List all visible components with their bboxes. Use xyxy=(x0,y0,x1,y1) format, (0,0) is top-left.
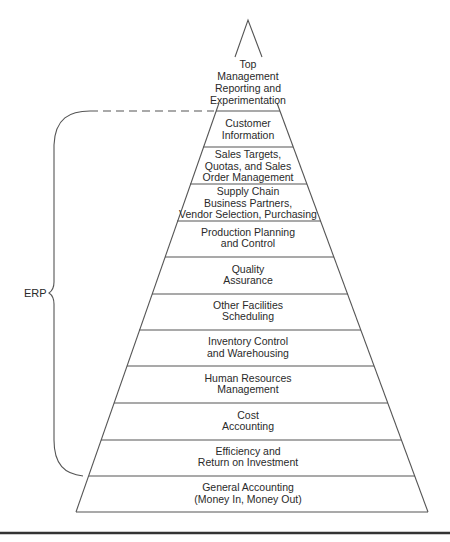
svg-text:Supply Chain: Supply Chain xyxy=(217,185,280,197)
svg-text:Scheduling: Scheduling xyxy=(222,310,274,322)
layer-production-planning: Production Planning and Control xyxy=(201,226,295,249)
layer-quality-assurance: Quality Assurance xyxy=(223,263,273,286)
svg-text:Reporting and: Reporting and xyxy=(215,82,281,94)
erp-pyramid-diagram: ERP Top Management Reporting and Experim… xyxy=(0,0,450,542)
layer-inventory-control: Inventory Control and Warehousing xyxy=(207,335,289,359)
layer-cost-accounting: Cost Accounting xyxy=(222,409,274,432)
pyramid-left-side xyxy=(76,103,219,512)
apex-label: Top Management Reporting and Experimenta… xyxy=(210,58,286,106)
pyramid-right-side xyxy=(277,103,428,512)
svg-text:Information: Information xyxy=(222,129,275,141)
svg-text:Sales Targets,: Sales Targets, xyxy=(215,148,281,160)
layer-supply-chain: Supply Chain Business Partners, Vendor S… xyxy=(179,185,317,220)
svg-text:Vendor Selection, Purchasing: Vendor Selection, Purchasing xyxy=(179,208,317,220)
svg-text:Management: Management xyxy=(217,70,278,82)
svg-text:and Control: and Control xyxy=(221,237,275,249)
layer-human-resources: Human Resources Management xyxy=(205,372,292,395)
svg-text:Return on Investment: Return on Investment xyxy=(198,456,298,468)
layer-efficiency-roi: Efficiency and Return on Investment xyxy=(198,445,298,468)
svg-text:Experimentation: Experimentation xyxy=(210,94,286,106)
layer-sales-targets: Sales Targets, Quotas, and Sales Order M… xyxy=(202,148,293,183)
svg-text:(Money In, Money Out): (Money In, Money Out) xyxy=(194,493,301,505)
svg-text:and Warehousing: and Warehousing xyxy=(207,347,289,359)
erp-label: ERP xyxy=(24,287,47,299)
svg-text:Assurance: Assurance xyxy=(223,274,273,286)
svg-text:General Accounting: General Accounting xyxy=(202,481,294,493)
pyramid-apex xyxy=(235,20,262,57)
layer-customer-information: Customer Information xyxy=(222,117,275,141)
svg-text:Inventory Control: Inventory Control xyxy=(208,335,288,347)
layer-other-facilities: Other Facilities Scheduling xyxy=(213,299,283,322)
erp-brace xyxy=(49,111,90,476)
svg-text:Management: Management xyxy=(217,383,278,395)
svg-text:Customer: Customer xyxy=(225,117,271,129)
svg-text:Order Management: Order Management xyxy=(202,171,293,183)
svg-text:Accounting: Accounting xyxy=(222,420,274,432)
layer-general-accounting: General Accounting (Money In, Money Out) xyxy=(194,481,301,505)
svg-text:Top: Top xyxy=(240,58,257,70)
